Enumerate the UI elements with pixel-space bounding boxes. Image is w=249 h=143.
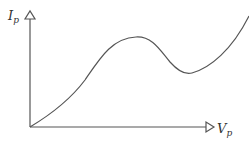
x-axis-label: Vp <box>217 122 232 138</box>
diagram-canvas <box>0 0 249 143</box>
iv-diagram: Ip Vp <box>0 0 249 143</box>
y-axis-subscript: p <box>13 15 19 25</box>
x-axis-subscript: p <box>226 128 232 138</box>
y-axis-arrow-icon <box>25 11 35 19</box>
characteristic-curve <box>30 16 249 127</box>
y-axis-label: Ip <box>8 9 19 25</box>
x-axis-symbol: V <box>217 121 226 136</box>
x-axis-arrow-icon <box>206 122 214 132</box>
